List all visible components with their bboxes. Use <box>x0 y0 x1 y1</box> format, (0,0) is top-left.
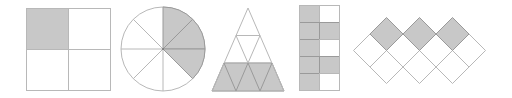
circle-figure <box>121 7 205 91</box>
shaded-cell <box>320 57 340 74</box>
shaded-cell <box>300 6 320 23</box>
unshaded-cell <box>69 50 111 91</box>
rectangle-figure <box>300 6 340 91</box>
inner-line <box>236 36 248 64</box>
unshaded-cell <box>320 74 340 91</box>
unshaded-cell <box>320 6 340 23</box>
inner-line <box>248 36 260 64</box>
center-dot <box>162 48 164 50</box>
fraction-figures: Fraction shapes <box>0 0 512 98</box>
shaded-cell <box>300 40 320 57</box>
shaded-cell <box>27 9 69 50</box>
unshaded-cell <box>320 40 340 57</box>
square-figure <box>27 9 111 91</box>
shaded-cell <box>300 74 320 91</box>
shaded-cell <box>300 23 320 40</box>
unshaded-cell <box>27 50 69 91</box>
diamond-figure <box>354 18 486 84</box>
shaded-cell <box>300 57 320 74</box>
triangle-figure <box>212 8 284 91</box>
unshaded-cell <box>69 9 111 50</box>
shaded-cell <box>320 23 340 40</box>
